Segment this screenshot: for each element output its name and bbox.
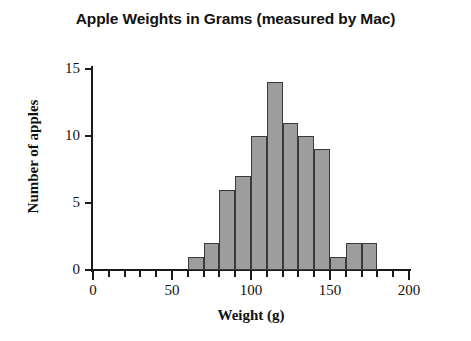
x-axis-tick-label: 150 [305, 283, 355, 298]
y-axis-tick-label-text: 5 [40, 195, 80, 210]
x-axis-minor-tick [155, 271, 157, 277]
y-axis-tick-label-text: 15 [40, 61, 80, 76]
histogram-bar [204, 243, 220, 270]
plot-area [93, 69, 409, 270]
x-axis-major-tick [329, 271, 331, 280]
histogram-bar [235, 176, 251, 270]
x-axis-major-tick [92, 271, 94, 280]
histogram-bar [283, 123, 299, 270]
x-axis-minor-tick [266, 271, 268, 277]
histogram-bar [251, 136, 267, 270]
x-axis-minor-tick [392, 271, 394, 277]
y-axis-tick-label-text: 10 [40, 128, 80, 143]
x-axis-minor-tick [282, 271, 284, 277]
histogram-bar [362, 243, 378, 270]
x-axis-tick-label: 100 [226, 283, 276, 298]
y-axis-tick-label: 15 [38, 61, 80, 76]
histogram-bar [188, 257, 204, 270]
x-axis-minor-tick [139, 271, 141, 277]
y-axis-tick-label: 5 [38, 195, 80, 210]
bars-layer [93, 69, 409, 270]
x-axis-minor-tick [376, 271, 378, 277]
x-axis-tick-label: 0 [68, 283, 118, 298]
y-axis-tick-label: 10 [38, 128, 80, 143]
x-axis-title: Weight (g) [93, 307, 409, 324]
x-axis-major-tick [250, 271, 252, 280]
x-axis-minor-tick [108, 271, 110, 277]
histogram-bar [314, 149, 330, 270]
x-axis-tick-label: 50 [147, 283, 197, 298]
y-axis-title-wrapper: Number of apples [0, 0, 1, 1]
y-axis-tick-label: 0 [38, 262, 80, 277]
x-axis-tick-label: 200 [384, 283, 434, 298]
x-axis-minor-tick [361, 271, 363, 277]
histogram-bar [330, 257, 346, 270]
x-axis-minor-tick [234, 271, 236, 277]
x-axis-minor-tick [187, 271, 189, 277]
x-axis-minor-tick [345, 271, 347, 277]
x-axis-minor-tick [313, 271, 315, 277]
x-axis-minor-tick [203, 271, 205, 277]
x-axis-minor-tick [218, 271, 220, 277]
y-axis-title: Number of apples [25, 57, 42, 257]
histogram-figure: Apple Weights in Grams (measured by Mac)… [0, 0, 471, 341]
y-axis-tick [85, 68, 91, 70]
y-axis-tick [85, 202, 91, 204]
x-axis-major-tick [171, 271, 173, 280]
histogram-bar [298, 136, 314, 270]
y-axis-tick-label-text: 0 [40, 262, 80, 277]
x-axis-minor-tick [297, 271, 299, 277]
x-axis-minor-tick [124, 271, 126, 277]
histogram-bar [219, 190, 235, 270]
y-axis-tick [85, 135, 91, 137]
y-axis-tick [85, 269, 91, 271]
x-axis-major-tick [408, 271, 410, 280]
histogram-bar [346, 243, 362, 270]
chart-title: Apple Weights in Grams (measured by Mac) [0, 10, 471, 28]
histogram-bar [267, 82, 283, 270]
